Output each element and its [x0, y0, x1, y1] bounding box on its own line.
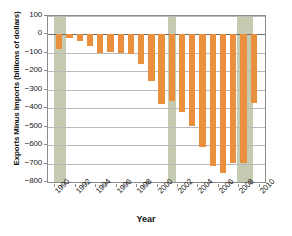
y-tick-label: −600 [25, 139, 42, 148]
bar [87, 34, 93, 46]
chart-container: Exports Minus Imports (billions of dolla… [0, 0, 292, 236]
bar [128, 34, 134, 53]
bar [230, 34, 236, 163]
bar [77, 34, 83, 41]
plot-area [47, 15, 266, 183]
bar [179, 34, 185, 111]
y-tick-label: −800 [25, 176, 42, 185]
y-tick-label: −200 [25, 65, 42, 74]
bar [56, 34, 62, 48]
bar [66, 34, 72, 38]
bar [199, 34, 205, 147]
bar [220, 34, 226, 173]
bar [107, 34, 113, 52]
bar [148, 34, 154, 81]
bar [97, 34, 103, 52]
bar [251, 34, 257, 102]
bar [169, 34, 175, 100]
bar [118, 34, 124, 53]
y-tick-label: 0 [38, 28, 42, 37]
y-axis-ticks: 1000−100−200−300−400−500−600−700−800 [0, 0, 45, 200]
gridline [48, 164, 265, 165]
y-tick-label: −500 [25, 121, 42, 130]
y-tick-label: 100 [29, 10, 42, 19]
bar [138, 34, 144, 64]
y-tick-label: −400 [25, 102, 42, 111]
bar [210, 34, 216, 165]
bar [158, 34, 164, 103]
y-tick-label: −700 [25, 158, 42, 167]
bar [189, 34, 195, 125]
y-tick-label: −100 [25, 47, 42, 56]
y-tick-label: −300 [25, 84, 42, 93]
gridline [48, 16, 265, 17]
x-axis-title: Year [0, 214, 292, 224]
bar [240, 34, 246, 163]
